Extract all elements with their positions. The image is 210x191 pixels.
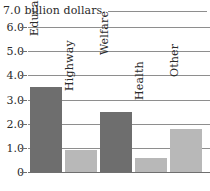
category-label-highway: Highway bbox=[64, 40, 75, 91]
y-tick-1 bbox=[20, 148, 27, 149]
axis-baseline bbox=[28, 172, 210, 173]
y-tick-3 bbox=[20, 100, 27, 101]
bar-chart: 7.0 billion dollars 6.0 5.0 4.0 3.0 2.0 … bbox=[0, 0, 210, 191]
y-tick-0 bbox=[20, 172, 27, 173]
bar-health[interactable] bbox=[135, 158, 167, 172]
y-tick-5 bbox=[20, 51, 27, 52]
bar-highway[interactable] bbox=[65, 150, 97, 172]
category-label-other: Other bbox=[169, 44, 180, 77]
category-label-education: Education bbox=[29, 0, 40, 36]
bar-series bbox=[28, 27, 210, 172]
bar-education[interactable] bbox=[30, 87, 62, 172]
chart-title: 7.0 billion dollars bbox=[3, 4, 102, 17]
y-tick-6 bbox=[20, 27, 27, 28]
plot-area: Education Highway Welfare Health Other bbox=[28, 27, 210, 172]
bar-other[interactable] bbox=[170, 129, 202, 173]
y-tick-4 bbox=[20, 75, 27, 76]
category-label-health: Health bbox=[134, 61, 145, 100]
gridline-7 bbox=[108, 11, 207, 12]
y-tick-2 bbox=[20, 124, 27, 125]
bar-welfare[interactable] bbox=[100, 112, 132, 172]
category-label-welfare: Welfare bbox=[99, 11, 110, 55]
